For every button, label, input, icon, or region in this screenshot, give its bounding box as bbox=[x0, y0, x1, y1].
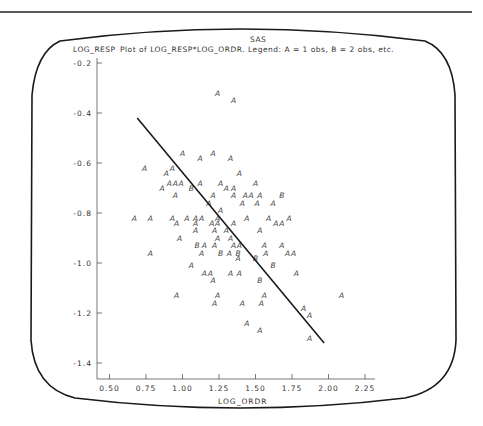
regression-line bbox=[137, 118, 324, 343]
y-tick-label: -0.8 bbox=[73, 209, 92, 218]
sas-plot-figure: SAS LOG_RESP Plot of LOG_RESP*LOG_ORDR. … bbox=[0, 0, 483, 426]
data-point-a: A bbox=[211, 241, 217, 250]
data-point-a: A bbox=[286, 214, 292, 223]
x-tick-label: 1.75 bbox=[282, 384, 303, 393]
x-tick-label: 0.75 bbox=[136, 384, 157, 393]
data-point-a: A bbox=[177, 179, 183, 188]
x-tick-label: 2.00 bbox=[318, 384, 339, 393]
x-tick-label: 2.25 bbox=[355, 384, 376, 393]
y-tick-label: -1.0 bbox=[73, 259, 92, 268]
y-tick-label: -0.2 bbox=[73, 59, 92, 68]
data-point-a: A bbox=[147, 214, 153, 223]
data-point-a: A bbox=[179, 149, 185, 158]
data-point-b: B bbox=[279, 191, 284, 200]
data-point-a: A bbox=[253, 199, 259, 208]
data-point-a: A bbox=[223, 184, 229, 193]
data-point-a: A bbox=[278, 241, 284, 250]
program-title: SAS bbox=[250, 35, 266, 44]
x-tick-label: 1.50 bbox=[245, 384, 266, 393]
data-point-a: A bbox=[239, 199, 245, 208]
data-point-a: A bbox=[131, 214, 137, 223]
y-tick-label: -1.4 bbox=[73, 359, 92, 368]
data-point-a: A bbox=[293, 269, 299, 278]
data-point-a: A bbox=[306, 334, 312, 343]
data-point-b: B bbox=[257, 276, 262, 285]
data-point-a: A bbox=[173, 219, 179, 228]
data-point-b: B bbox=[270, 261, 275, 270]
y-tick-label: -1.2 bbox=[73, 309, 92, 318]
data-point-a: A bbox=[188, 261, 194, 270]
data-point-a: A bbox=[196, 179, 202, 188]
data-point-a: A bbox=[183, 214, 189, 223]
data-point-a: A bbox=[211, 299, 217, 308]
data-point-a: A bbox=[192, 226, 198, 235]
data-point-a: A bbox=[210, 276, 216, 285]
data-point-a: A bbox=[176, 234, 182, 243]
data-point-a: A bbox=[256, 326, 262, 335]
data-point-a: A bbox=[196, 154, 202, 163]
data-point-a: A bbox=[252, 179, 258, 188]
y-tick-label: -0.6 bbox=[73, 159, 92, 168]
data-point-a: A bbox=[198, 214, 204, 223]
data-point-a: A bbox=[265, 214, 271, 223]
data-point-a: A bbox=[141, 164, 147, 173]
data-point-a: A bbox=[158, 184, 164, 193]
data-point-a: A bbox=[230, 96, 236, 105]
data-point-a: A bbox=[236, 169, 242, 178]
data-point-a: A bbox=[234, 254, 240, 263]
x-axis-label: LOG_ORDR bbox=[218, 397, 267, 406]
data-point-a: A bbox=[163, 169, 169, 178]
data-point-a: A bbox=[290, 249, 296, 258]
data-point-a: A bbox=[172, 191, 178, 200]
data-point-a: A bbox=[147, 249, 153, 258]
data-point-a: A bbox=[227, 269, 233, 278]
y-tick-label: -0.4 bbox=[73, 109, 92, 118]
data-point-a: A bbox=[338, 291, 344, 300]
data-point-a: A bbox=[258, 299, 264, 308]
data-point-a: A bbox=[201, 269, 207, 278]
data-point-a: A bbox=[256, 226, 262, 235]
data-point-a: A bbox=[210, 149, 216, 158]
data-point-a: A bbox=[272, 219, 278, 228]
data-point-a: A bbox=[239, 299, 245, 308]
data-point-b: B bbox=[218, 249, 223, 258]
data-point-a: A bbox=[230, 219, 236, 228]
data-point-a: A bbox=[300, 304, 306, 313]
x-tick-label: 1.25 bbox=[209, 384, 230, 393]
data-point-a: A bbox=[236, 269, 242, 278]
x-ticks: 0.500.751.001.251.501.752.002.25 bbox=[99, 374, 375, 393]
data-point-a: A bbox=[172, 179, 178, 188]
x-tick-label: 1.00 bbox=[172, 384, 193, 393]
data-point-a: A bbox=[217, 179, 223, 188]
plot-title: Plot of LOG_RESP*LOG_ORDR. Legend: A = 1… bbox=[120, 45, 394, 54]
data-point-a: A bbox=[243, 214, 249, 223]
data-point-a: A bbox=[243, 319, 249, 328]
y-variable-label: LOG_RESP bbox=[73, 45, 116, 54]
scatter-points: AAAAAAAAAAAAAAAAABAAAAAAAABAAAAAAAAAAAAA… bbox=[131, 89, 344, 343]
data-point-a: A bbox=[284, 249, 290, 258]
data-point-a: A bbox=[262, 249, 268, 258]
data-point-a: A bbox=[198, 249, 204, 258]
x-tick-label: 0.50 bbox=[99, 384, 120, 393]
data-point-a: A bbox=[226, 249, 232, 258]
data-point-a: A bbox=[166, 179, 172, 188]
data-point-a: A bbox=[173, 291, 179, 300]
data-point-a: A bbox=[278, 219, 284, 228]
y-ticks: -0.2-0.4-0.6-0.8-1.0-1.2-1.4 bbox=[73, 59, 102, 368]
data-point-a: A bbox=[214, 89, 220, 98]
data-point-a: A bbox=[227, 154, 233, 163]
data-point-a: A bbox=[169, 164, 175, 173]
data-point-a: A bbox=[230, 191, 236, 200]
data-point-a: A bbox=[269, 199, 275, 208]
data-point-a: A bbox=[248, 191, 254, 200]
data-point-a: A bbox=[306, 311, 312, 320]
